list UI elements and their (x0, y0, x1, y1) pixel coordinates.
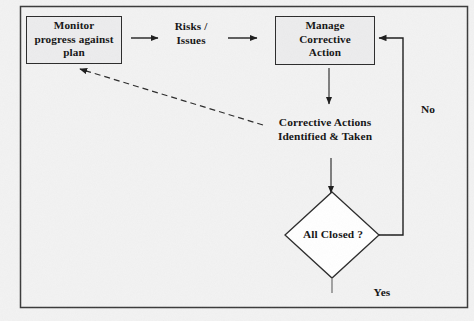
node-all-closed-label: All Closed ? (288, 228, 378, 242)
node-monitor-line-2: progress against (26, 33, 122, 47)
node-manage-corrective-action-label: Manage Corrective Action (275, 19, 375, 60)
node-risks-line-2: Issues (160, 34, 222, 48)
node-monitor-line-3: plan (26, 46, 122, 60)
node-corrective-actions-label: Corrective Actions Identified & Taken (258, 116, 392, 144)
diagram-canvas: Monitor progress against plan Risks / Is… (0, 0, 474, 321)
node-manage-line-3: Action (275, 46, 375, 60)
node-monitor-line-1: Monitor (26, 19, 122, 33)
edge-label-no: No (414, 103, 442, 117)
node-corrective-actions-line-1: Corrective Actions (258, 116, 392, 130)
edge-feedback-dashed-to-monitor (80, 69, 263, 125)
node-manage-line-2: Corrective (275, 33, 375, 47)
edge-label-yes: Yes (364, 286, 400, 300)
node-risks-line-1: Risks / (160, 20, 222, 34)
node-corrective-actions-line-2: Identified & Taken (258, 130, 392, 144)
node-monitor-progress-label: Monitor progress against plan (26, 19, 122, 60)
node-risks-issues-label: Risks / Issues (160, 20, 222, 47)
node-manage-line-1: Manage (275, 19, 375, 33)
